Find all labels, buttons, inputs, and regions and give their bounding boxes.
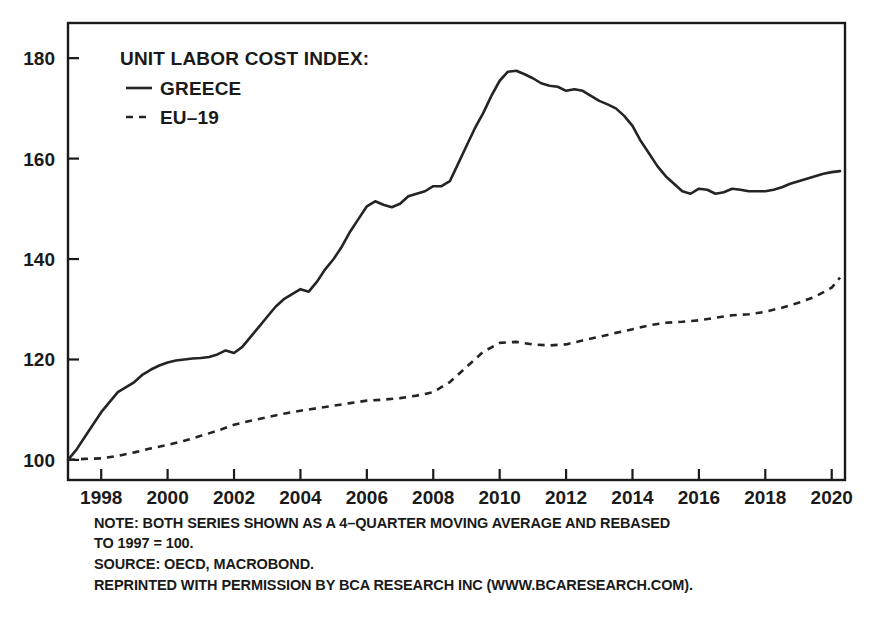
unit-labor-cost-index-chart: 100120140160180 199820002002200420062008… — [0, 0, 875, 627]
y-tick-label: 160 — [23, 149, 55, 170]
footnote-line-3: SOURCE: OECD, MACROBOND. — [94, 556, 314, 572]
x-tick-label: 2014 — [611, 487, 654, 508]
y-axis-tick-labels: 100120140160180 — [23, 48, 55, 471]
footnote-line-2: TO 1997 = 100. — [94, 535, 194, 551]
x-tick-label: 1998 — [80, 487, 122, 508]
chart-footnotes: NOTE: BOTH SERIES SHOWN AS A 4–QUARTER M… — [94, 515, 693, 593]
legend-label-greece: GREECE — [160, 78, 241, 99]
y-tick-label: 100 — [23, 450, 55, 471]
x-tick-label: 2016 — [678, 487, 720, 508]
series-line-eu19 — [68, 278, 840, 460]
x-tick-label: 2008 — [412, 487, 454, 508]
x-axis-ticks — [101, 469, 832, 480]
x-tick-label: 2018 — [744, 487, 786, 508]
x-tick-label: 2000 — [146, 487, 188, 508]
footnote-line-1: NOTE: BOTH SERIES SHOWN AS A 4–QUARTER M… — [94, 515, 670, 531]
y-tick-label: 140 — [23, 249, 55, 270]
x-axis-tick-labels: 1998200020022004200620082010201220142016… — [80, 487, 853, 508]
x-tick-label: 2010 — [479, 487, 521, 508]
legend-label-eu19: EU–19 — [160, 107, 219, 128]
y-tick-label: 120 — [23, 349, 55, 370]
x-tick-label: 2004 — [279, 487, 322, 508]
x-tick-label: 2020 — [811, 487, 853, 508]
footnote-line-4: REPRINTED WITH PERMISSION BY BCA RESEARC… — [94, 577, 693, 593]
chart-legend: UNIT LABOR COST INDEX: GREECE EU–19 — [120, 48, 369, 128]
x-tick-label: 2006 — [346, 487, 388, 508]
y-axis-ticks — [68, 58, 79, 460]
legend-title: UNIT LABOR COST INDEX: — [120, 48, 369, 69]
x-tick-label: 2012 — [545, 487, 587, 508]
x-tick-label: 2002 — [213, 487, 255, 508]
chart-container: 100120140160180 199820002002200420062008… — [0, 0, 875, 627]
y-tick-label: 180 — [23, 48, 55, 69]
series-line-greece — [68, 71, 840, 460]
